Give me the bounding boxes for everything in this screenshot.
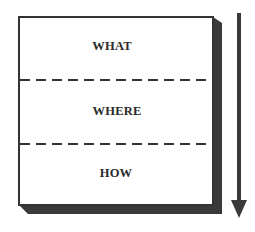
layer-label-what: WHAT — [92, 39, 132, 53]
arrow-shaft — [237, 13, 241, 201]
box-shadow-right — [213, 17, 222, 214]
down-arrow-icon — [231, 13, 247, 218]
arrow-head — [231, 200, 247, 218]
layers-diagram: WHAT WHERE HOW — [0, 0, 255, 232]
layer-label-how: HOW — [100, 166, 133, 180]
layer-label-where: WHERE — [93, 104, 142, 118]
box-shadow-bottom — [19, 205, 222, 214]
